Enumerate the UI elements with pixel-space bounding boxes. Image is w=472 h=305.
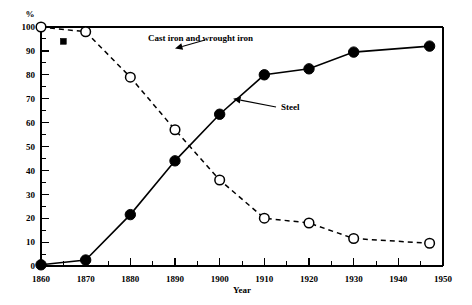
plot-frame (41, 27, 443, 266)
annotation-arrow-line (240, 100, 276, 107)
series-line-cast-iron-and-wrought-iron (41, 27, 430, 243)
data-point-steel (80, 255, 90, 265)
data-point-steel (125, 209, 135, 219)
data-point-cast-iron (425, 238, 435, 248)
y-tick-label: 100 (22, 22, 36, 32)
annotation-label: Cast iron and wrought iron (148, 33, 253, 43)
data-point-cast-iron (349, 234, 359, 244)
data-point-cast-iron (36, 22, 46, 32)
annotation-arrow-head (233, 97, 241, 104)
data-point-steel (259, 70, 269, 80)
x-tick-label: 1920 (300, 274, 319, 284)
x-tick-label: 1860 (32, 274, 51, 284)
y-tick-label: 60 (26, 118, 36, 128)
data-point-steel (36, 260, 46, 270)
annotation-arrow-head (175, 43, 183, 50)
y-tick-label: 40 (26, 166, 36, 176)
data-point-cast-iron (215, 175, 225, 185)
data-point-cast-iron (81, 27, 91, 37)
x-tick-label: 1930 (345, 274, 364, 284)
y-axis: 0102030405060708090100 (22, 22, 50, 271)
x-axis-title: Year (233, 285, 251, 295)
data-point-cast-iron (126, 72, 136, 82)
series-line-steel (41, 46, 430, 265)
y-tick-label: 20 (26, 213, 36, 223)
y-tick-label: 10 (26, 237, 36, 247)
x-tick-label: 1910 (255, 274, 274, 284)
y-tick-label: 70 (26, 94, 36, 104)
data-series-group (36, 22, 435, 270)
y-tick-label: 30 (26, 190, 36, 200)
y-tick-label: 50 (26, 142, 36, 152)
data-point-cast-iron (304, 218, 314, 228)
data-point-steel (214, 109, 224, 119)
data-point-steel (424, 41, 434, 51)
y-tick-label: 80 (26, 70, 36, 80)
data-point-square-marker (60, 38, 66, 44)
x-tick-label: 1870 (77, 274, 96, 284)
x-tick-label: 1900 (211, 274, 230, 284)
data-point-steel (348, 47, 358, 57)
annotation-label: Steel (281, 102, 300, 112)
x-tick-label: 1890 (166, 274, 185, 284)
y-tick-label: 90 (26, 46, 36, 56)
chart-canvas: % 0102030405060708090100 186018701880189… (0, 0, 472, 305)
chart-page: % 0102030405060708090100 186018701880189… (0, 0, 472, 305)
y-axis-unit-label: % (26, 9, 35, 19)
y-tick-label: 0 (31, 261, 36, 271)
x-tick-label: 1880 (121, 274, 140, 284)
x-axis: 1860187018801890190019101920193019401950 (32, 258, 453, 284)
data-point-cast-iron (170, 125, 180, 135)
x-tick-label: 1940 (389, 274, 408, 284)
data-point-steel (170, 156, 180, 166)
x-tick-label: 1950 (434, 274, 453, 284)
data-point-steel (304, 64, 314, 74)
data-point-cast-iron (260, 213, 270, 223)
